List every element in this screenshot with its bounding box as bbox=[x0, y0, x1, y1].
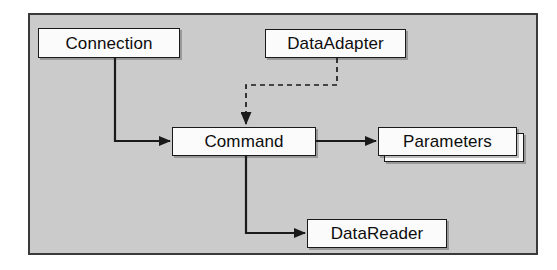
node-connection-label: Connection bbox=[65, 35, 152, 52]
node-connection[interactable]: Connection bbox=[38, 28, 180, 58]
node-parameters-label: Parameters bbox=[403, 133, 492, 150]
node-parameters[interactable]: Parameters bbox=[378, 127, 517, 156]
diagram-canvas: Connection DataAdapter Command Parameter… bbox=[0, 0, 557, 270]
node-command-label: Command bbox=[204, 133, 283, 150]
node-dataadapter[interactable]: DataAdapter bbox=[265, 29, 406, 58]
node-command[interactable]: Command bbox=[172, 127, 316, 156]
node-datareader[interactable]: DataReader bbox=[307, 219, 447, 248]
node-datareader-label: DataReader bbox=[331, 225, 424, 242]
node-dataadapter-label: DataAdapter bbox=[287, 35, 384, 52]
